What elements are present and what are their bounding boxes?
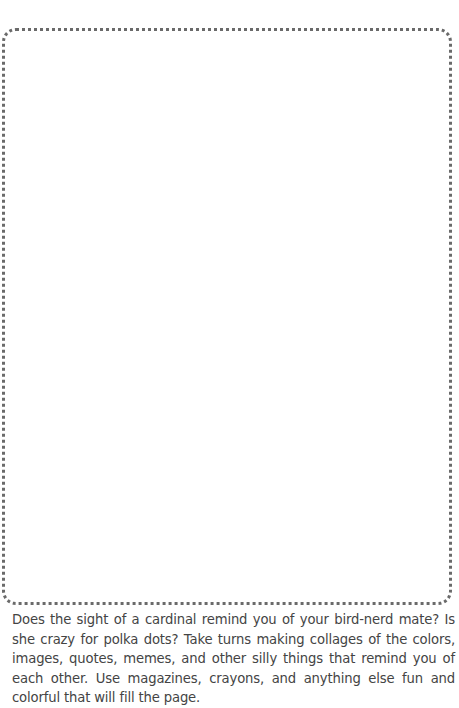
activity-prompt-text: Does the sight of a cardinal remind you … (12, 610, 455, 708)
collage-drawing-area (2, 28, 452, 605)
